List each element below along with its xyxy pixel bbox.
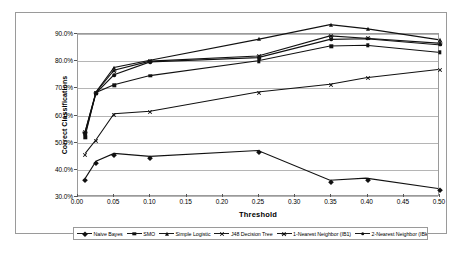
legend-item[interactable]: J48 Decision Tree: [214, 231, 272, 237]
data-point-marker: [94, 92, 98, 96]
data-point-marker: [330, 38, 334, 42]
x-axis-tick-label: 0.40: [360, 198, 372, 206]
data-point-marker: [83, 133, 87, 137]
data-point-marker: [112, 84, 115, 87]
data-point-marker: [366, 37, 370, 41]
x-axis-tick-label: 0.20: [216, 198, 228, 206]
legend-marker-icon: [159, 231, 174, 237]
x-axis-tick: [330, 194, 331, 197]
x-axis-tick: [77, 194, 78, 197]
legend-label: Simple Logistic: [176, 231, 211, 237]
legend-label: SMO: [143, 231, 155, 237]
data-point-marker: [438, 67, 443, 72]
legend-marker-icon: [77, 231, 92, 237]
y-axis-tick-label: 80.0%: [55, 57, 73, 64]
x-axis-tick: [367, 194, 368, 197]
x-axis-tick-label: 0.25: [252, 198, 264, 206]
data-point-marker: [94, 139, 99, 144]
data-point-marker: [257, 59, 260, 62]
x-axis-tick: [113, 194, 114, 197]
y-axis-tick-label: 70.0%: [55, 84, 73, 91]
plot-area: [77, 33, 439, 196]
data-point-marker: [112, 73, 116, 77]
data-point-marker: [438, 43, 442, 47]
x-axis-tick-label: 0.50: [433, 198, 445, 206]
data-point-marker: [365, 76, 370, 81]
data-point-marker: [112, 68, 117, 73]
x-axis-tick: [222, 194, 223, 197]
legend-marker-icon: [355, 231, 370, 237]
legend-marker-icon: [214, 231, 229, 237]
data-point-marker: [256, 149, 261, 154]
data-point-marker: [438, 51, 441, 54]
data-point-marker: [365, 177, 370, 182]
data-point-marker: [257, 90, 262, 95]
x-axis-tick: [186, 194, 187, 197]
data-point-marker: [257, 37, 261, 41]
data-point-marker: [329, 22, 333, 26]
legend-item[interactable]: Simple Logistic: [159, 231, 210, 237]
chart-root: Correct Classifications 30.0%40.0%50.0%6…: [0, 0, 462, 253]
legend-label: 1-Nearest Neighbor (IB1): [293, 231, 351, 237]
data-point-marker: [94, 160, 99, 165]
y-axis-labels: 30.0%40.0%50.0%60.0%70.0%80.0%90.0%: [31, 25, 77, 215]
legend-marker-icon: [277, 231, 292, 237]
legend-marker-icon: [127, 231, 142, 237]
legend-marker: [219, 231, 224, 236]
x-axis-tick: [258, 194, 259, 197]
data-point-marker: [329, 180, 334, 185]
x-axis-tick: [149, 194, 150, 197]
x-axis-tick-label: 0.00: [71, 198, 83, 206]
chart-legend: Naive BayesSMOSimple LogisticJ48 Decisio…: [73, 227, 428, 240]
legend-item[interactable]: 1-Nearest Neighbor (IB1): [277, 231, 351, 237]
x-axis-tick: [403, 194, 404, 197]
x-axis-tick: [439, 194, 440, 197]
chart-outer-frame: Correct Classifications 30.0%40.0%50.0%6…: [15, 12, 447, 234]
data-point-marker: [148, 155, 153, 160]
legend-item[interactable]: Naive Bayes: [77, 231, 123, 237]
x-axis-tick-label: 0.15: [179, 198, 191, 206]
x-axis-title: Threshold: [77, 210, 439, 219]
y-axis-tick-label: 60.0%: [55, 111, 73, 118]
x-axis-tick-label: 0.35: [324, 198, 336, 206]
data-point-marker: [112, 112, 117, 117]
legend-marker: [132, 232, 135, 235]
data-point-marker: [366, 44, 369, 47]
x-axis-tick-label: 0.10: [143, 198, 155, 206]
legend-item[interactable]: SMO: [127, 231, 155, 237]
x-axis-tick-label: 0.45: [397, 198, 409, 206]
legend-label: J48 Decision Tree: [231, 231, 273, 237]
series-markers: [78, 34, 438, 195]
x-axis-tick-label: 0.05: [107, 198, 119, 206]
x-axis-tick-label: 0.30: [288, 198, 300, 206]
data-point-marker: [437, 188, 442, 193]
legend-marker: [82, 231, 87, 236]
data-point-marker: [83, 178, 88, 183]
y-axis-tick-label: 50.0%: [55, 138, 73, 145]
data-point-marker: [149, 60, 153, 64]
data-point-marker: [83, 152, 88, 157]
data-point-marker: [366, 26, 370, 30]
legend-label: 2-Nearest Neighbor (IBk): [372, 231, 428, 237]
y-axis-tick-label: 90.0%: [55, 30, 73, 37]
legend-label: Naive Bayes: [94, 231, 123, 237]
legend-marker: [282, 231, 287, 236]
data-point-marker: [257, 56, 261, 60]
legend-marker: [165, 231, 169, 235]
data-point-marker: [330, 45, 333, 48]
legend-item[interactable]: 2-Nearest Neighbor (IBk): [355, 231, 428, 237]
data-point-marker: [112, 152, 117, 157]
data-point-marker: [329, 82, 334, 87]
data-point-marker: [148, 110, 153, 115]
legend-marker: [361, 232, 365, 236]
x-axis-tick: [294, 194, 295, 197]
data-point-marker: [149, 74, 152, 77]
y-axis-tick-label: 40.0%: [55, 165, 73, 172]
